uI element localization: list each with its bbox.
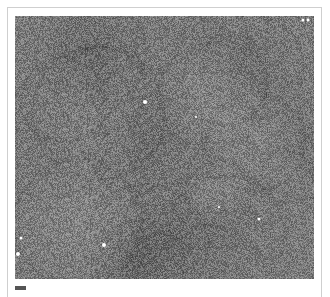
scale-bar [15, 286, 26, 290]
micrograph-image [15, 16, 314, 279]
